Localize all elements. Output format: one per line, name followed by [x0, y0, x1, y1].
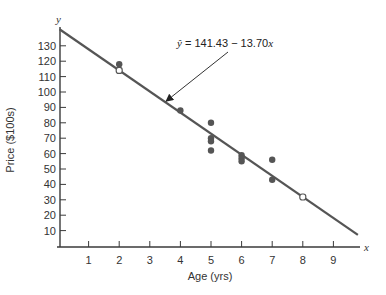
data-point: [208, 120, 214, 126]
data-point: [269, 177, 275, 183]
data-point: [116, 61, 122, 67]
fitted-point: [300, 194, 306, 200]
regression-line: [60, 29, 358, 235]
data-point: [269, 157, 275, 163]
y-tick-label: 70: [44, 132, 56, 144]
y-tick-label: 80: [44, 117, 56, 129]
fitted-point: [116, 67, 122, 73]
x-axis-letter: x: [363, 241, 369, 253]
x-tick-label: 8: [300, 254, 306, 266]
y-tick-label: 20: [44, 209, 56, 221]
equation-x: x: [267, 37, 273, 49]
y-tick-label: 100: [38, 86, 56, 98]
y-tick-label: 40: [44, 178, 56, 190]
data-point: [238, 158, 244, 164]
y-tick-label: 60: [44, 148, 56, 160]
y-axis-letter: y: [55, 13, 61, 25]
data-point: [208, 147, 214, 153]
y-tick-label: 110: [38, 71, 56, 83]
annotation-arrow: [166, 52, 228, 101]
equation-body: = 141.43 − 13.70: [182, 37, 268, 49]
scatter-chart: 102030405060708090100110120130 123456789…: [0, 0, 386, 295]
data-point: [177, 107, 183, 113]
y-tick-label: 50: [44, 163, 56, 175]
data-point: [208, 138, 214, 144]
x-axis-ticks: 123456789: [86, 241, 337, 266]
y-tick-label: 10: [44, 225, 56, 237]
x-tick-label: 7: [269, 254, 275, 266]
x-tick-label: 4: [177, 254, 183, 266]
fitted-line: [60, 29, 358, 235]
x-tick-label: 5: [208, 254, 214, 266]
x-tick-label: 2: [116, 254, 122, 266]
y-tick-label: 30: [44, 194, 56, 206]
y-tick-label: 90: [44, 101, 56, 113]
equation-annotation: ŷ = 141.43 − 13.70x: [166, 37, 273, 101]
x-tick-label: 9: [330, 254, 336, 266]
equation-text: ŷ = 141.43 − 13.70x: [176, 37, 273, 49]
y-axis-label: Price ($100s): [4, 107, 16, 172]
x-axis-label: Age (yrs): [188, 270, 233, 282]
x-tick-label: 6: [239, 254, 245, 266]
x-tick-label: 1: [86, 254, 92, 266]
x-tick-label: 3: [147, 254, 153, 266]
y-tick-label: 120: [38, 55, 56, 67]
y-tick-label: 130: [38, 40, 56, 52]
y-axis-ticks: 102030405060708090100110120130: [38, 40, 66, 237]
